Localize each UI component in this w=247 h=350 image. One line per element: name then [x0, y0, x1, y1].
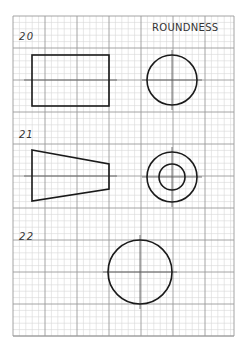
drafting-sheet: ROUNDNESS 20 21 22 — [0, 0, 247, 350]
sheet-title: ROUNDNESS — [152, 22, 219, 33]
exercise-20-number: 20 — [19, 31, 35, 42]
exercise-21-number: 21 — [19, 129, 34, 140]
exercise-22-number: 22 — [19, 231, 35, 242]
technical-drawings — [24, 50, 202, 309]
